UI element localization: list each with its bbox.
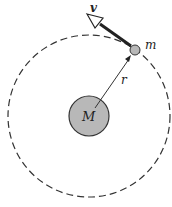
radius-label: r [121, 73, 128, 87]
orbit-diagram: M r v m [0, 0, 172, 207]
velocity-vector [100, 24, 131, 46]
central-mass-label: M [81, 109, 96, 124]
velocity-label: v [90, 1, 98, 15]
orbiting-mass [130, 45, 140, 55]
orbiting-mass-label: m [145, 38, 156, 52]
radius-arrowhead-icon [125, 55, 131, 62]
